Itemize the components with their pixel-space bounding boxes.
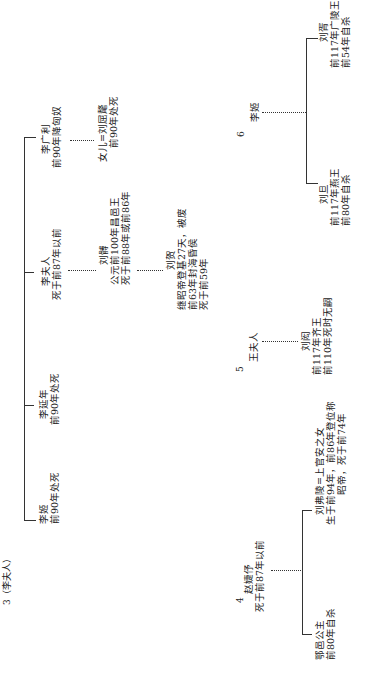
member-name: 刘闳 (300, 297, 311, 375)
chart4-tick-fuling (302, 510, 312, 511)
member-name: 李姬 (249, 102, 260, 122)
chart6-child-liu-dan: 刘旦 前117年燕王 前80年自杀 (318, 168, 351, 226)
member-note: 前90年降匈奴 (51, 106, 62, 168)
member-note: 死于前87年以前 (254, 540, 265, 612)
chart6-link-children (262, 112, 306, 113)
member-note: 前54年自杀 (340, 0, 351, 68)
member-name: 李广利 (40, 106, 51, 168)
member-name: 刘弗陵=上官安之女 (314, 401, 325, 525)
member-note: 公元前100年昌邑王 (109, 191, 120, 285)
chart4-mother: 赵婕伃 死于前87年以前 (243, 540, 265, 612)
member-note: 前90年处死 (49, 472, 60, 524)
chart3-member-li-guangli: 李广利 前90年降匈奴 (40, 106, 62, 168)
member-name: 刘贺 (165, 208, 176, 310)
member-name: 王夫人 (248, 332, 259, 362)
chart4-tick-eyi (302, 634, 312, 635)
member-note: 生于前94年，前86年登位称 (325, 401, 336, 525)
chart3-link-daughter (70, 140, 94, 141)
member-note: 前90年处死 (108, 96, 119, 162)
member-name: 李延年 (38, 373, 49, 425)
chart5-link-child (262, 341, 298, 342)
member-note: 前90年处死 (49, 373, 60, 425)
chart3-sibling-line (24, 137, 25, 520)
chart3-tick-li-guangli (24, 137, 36, 138)
member-name: 刘旦 (318, 168, 329, 226)
member-note: 继昭帝登基27天，被废 (176, 208, 187, 310)
member-name: 刘髆 (98, 191, 109, 285)
member-note: 前117年齐王 (311, 297, 322, 375)
member-note: 前80年自杀 (325, 608, 336, 660)
chart3-grandson-liu-he: 刘贺 继昭帝登基27天，被废 前63年封海昏侯 死于前59年 (165, 208, 209, 310)
chart6-mother: 李姬 (249, 102, 260, 122)
chart3-member-li-yannian: 李延年 前90年处死 (38, 373, 60, 425)
chart3-link-liu-he (137, 270, 163, 271)
member-note: 前117年燕王 (329, 168, 340, 226)
chart3-member-li-ji: 李姬 前90年处死 (38, 472, 60, 524)
chart4-child-fuling: 刘弗陵=上官安之女 生于前94年，前86年登位称 昭帝，死于前74年 (314, 401, 347, 525)
member-name: 女儿=刘屈氂 (97, 96, 108, 162)
chart3-tick-li-furen (24, 272, 34, 273)
chart4-sibling-line (302, 510, 303, 635)
chart6-child-liu-xu: 刘胥 前117年广陵王 前54年自杀 (318, 0, 351, 68)
chart5-mother: 王夫人 (248, 332, 259, 362)
member-name: 刘胥 (318, 0, 329, 68)
chart6-label: 6 (236, 131, 247, 137)
chart4-link-children (271, 570, 301, 571)
chart5-child-liu-hong: 刘闳 前117年齐王 前110年死时无嗣 (300, 297, 333, 375)
member-name: 李夫人 (40, 228, 51, 300)
chart3-tick-li-ji (24, 520, 36, 521)
member-note: 前63年封海昏侯 (187, 208, 198, 310)
chart3-link-liu-bo (68, 270, 96, 271)
member-note: 前117年广陵王 (329, 0, 340, 68)
member-note: 死于前87年以前 (51, 228, 62, 300)
member-note: 前80年自杀 (340, 168, 351, 226)
chart6-tick-liu-xu (306, 38, 318, 39)
chart3-son-liu-bo: 刘髆 公元前100年昌邑王 死于前88年或前86年 (98, 191, 131, 285)
chart4-child-eyi: 鄂邑公主 前80年自杀 (314, 608, 336, 660)
chart6-sibling-line (306, 38, 307, 184)
member-note: 前110年死时无嗣 (322, 297, 333, 375)
chart5-label: 5 (235, 366, 246, 372)
chart3-daughter: 女儿=刘屈氂 前90年处死 (97, 96, 119, 162)
chart3-tick-li-yannian (24, 405, 34, 406)
chart3-label: 3（李夫人） (2, 554, 13, 605)
member-name: 赵婕伃 (243, 540, 254, 612)
member-note: 死于前59年 (198, 208, 209, 310)
member-note: 死于前88年或前86年 (120, 191, 131, 285)
chart3-member-li-furen: 李夫人 死于前87年以前 (40, 228, 62, 300)
member-note: 昭帝，死于前74年 (336, 401, 347, 525)
chart6-tick-liu-dan (306, 183, 318, 184)
member-name: 鄂邑公主 (314, 608, 325, 660)
member-name: 李姬 (38, 472, 49, 524)
